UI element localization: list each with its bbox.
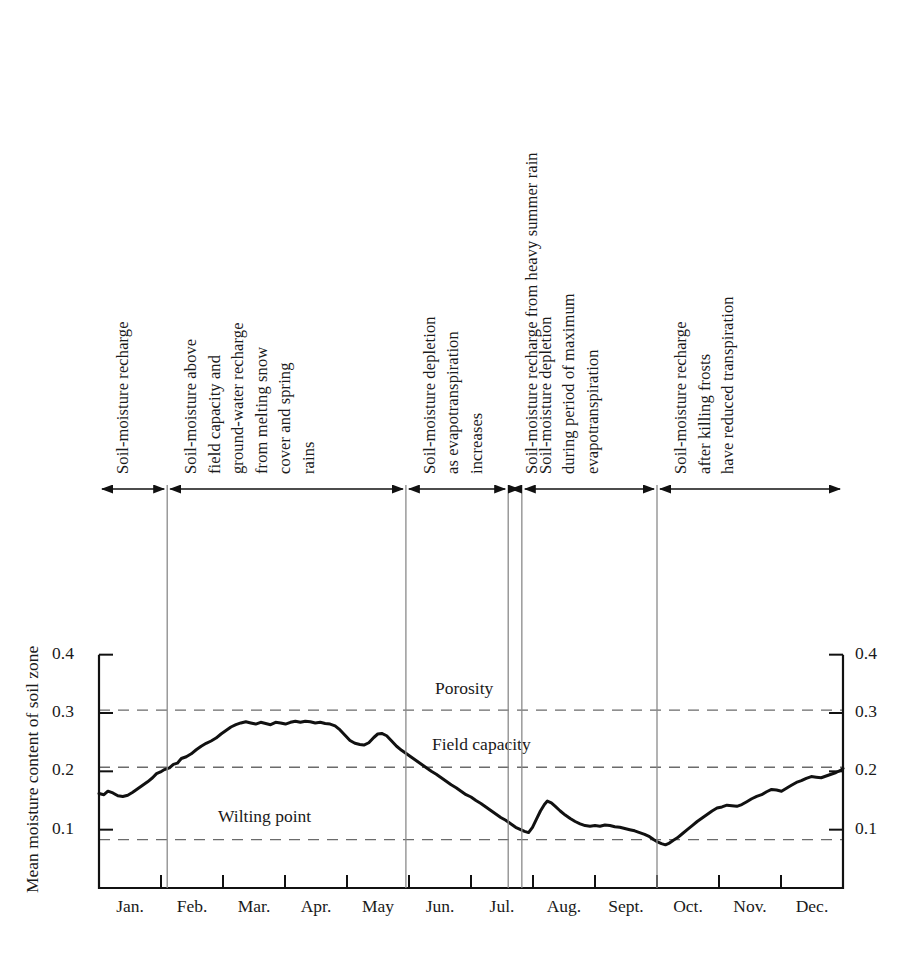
annotation-text-above-field-capacity-line-3: from melting snow (250, 347, 274, 474)
annotation-text-above-field-capacity-line-0: Soil-moisture above (179, 339, 203, 474)
annotation-text-recharge-after-frost-line-0: Soil-moisture recharge (669, 321, 693, 474)
y-tick-label-left-3: 0.1 (52, 818, 74, 839)
annotation-text-depletion-max-evapotranspiration-line-2: evapotranspiration (581, 349, 605, 474)
soil-moisture-figure: PorosityField capacityWilting point Mean… (0, 0, 910, 957)
chart-canvas: PorosityField capacityWilting point (0, 0, 910, 957)
annotation-text-depletion-max-evapotranspiration-line-1: during period of maximum (557, 293, 581, 474)
y-tick-label-right-2: 0.2 (855, 759, 877, 780)
y-tick-label-right-0: 0.4 (855, 643, 877, 664)
reference-label-porosity: Porosity (435, 678, 494, 698)
annotation-text-recharge-after-frost-line-1: after killing frosts (693, 354, 717, 474)
annotation-text-above-field-capacity-line-1: field capacity and (203, 355, 227, 474)
y-tick-label-right-1: 0.3 (855, 701, 877, 722)
annotation-text-above-field-capacity-line-2: ground-water recharge (226, 322, 250, 474)
annotation-text-depletion-evapotranspiration-line-1: as evapotranspiration (441, 331, 465, 474)
annotation-text-depletion-evapotranspiration-line-2: increases (465, 413, 489, 474)
annotation-text-above-field-capacity-line-5: rains (297, 441, 321, 474)
y-tick-label-left-0: 0.4 (52, 643, 74, 664)
annotation-text-recharge-after-frost-line-2: have reduced transpiration (716, 296, 740, 474)
annotation-text-recharge-winter-line-0: Soil-moisture recharge (111, 321, 135, 474)
annotation-text-depletion-max-evapotranspiration-line-0: Soil-moisture depletion (534, 316, 558, 474)
reference-label-wilting-point: Wilting point (218, 806, 311, 826)
annotation-text-depletion-evapotranspiration-line-0: Soil-moisture depletion (418, 316, 442, 474)
y-axis-title: Mean moisture content of soil zone (22, 646, 43, 893)
annotation-text-above-field-capacity-line-4: cover and spring (273, 362, 297, 474)
y-tick-label-left-2: 0.2 (52, 759, 74, 780)
reference-label-field-capacity: Field capacity (432, 734, 531, 754)
x-axis-month-label-dec: Dec. (767, 896, 857, 917)
y-tick-label-left-1: 0.3 (52, 701, 74, 722)
y-tick-label-right-3: 0.1 (855, 818, 877, 839)
